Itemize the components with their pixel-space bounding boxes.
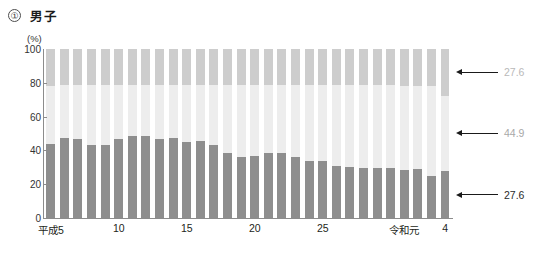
bar-segment-bottom (291, 157, 300, 218)
annotation-bottom: 27.6 (456, 189, 524, 201)
bar-column (262, 49, 276, 218)
bar-segment-middle (169, 85, 178, 137)
bar-segment-middle (60, 85, 69, 137)
bar-segment-middle (114, 85, 123, 138)
bar-segment-top (291, 49, 300, 85)
bar-segment-middle (386, 85, 395, 168)
y-axis-tick-label: 40 (30, 145, 41, 156)
bar-segment-bottom (427, 176, 436, 218)
y-axis-tick-label: 60 (30, 111, 41, 122)
bar-segment-top (264, 49, 273, 85)
bar-segment-bottom (46, 144, 55, 218)
bar-column (329, 49, 343, 218)
bar-segment-top (413, 49, 422, 86)
bar-segment-bottom (332, 166, 341, 218)
bar-segment-top (73, 49, 82, 85)
x-axis-tick-label: 20 (249, 222, 261, 234)
bar-segment-top (237, 49, 246, 85)
x-axis-tick-label: 25 (317, 222, 329, 234)
x-axis-tick-label: 令和元 (389, 222, 419, 237)
bar-segment-bottom (441, 171, 450, 218)
annotation-middle: 44.9 (456, 127, 524, 139)
bar-segment-middle (128, 85, 137, 136)
bar-segment-top (114, 49, 123, 85)
bar-segment-top (46, 49, 55, 86)
bar-segment-bottom (87, 145, 96, 219)
bar-segment-top (332, 49, 341, 85)
x-axis-line (43, 218, 453, 219)
bar-segment-top (277, 49, 286, 85)
bar-segment-top (141, 49, 150, 85)
bar-segment-bottom (345, 167, 354, 218)
bar-column (357, 49, 371, 218)
bar-column (411, 49, 425, 218)
bar-segment-middle (46, 86, 55, 144)
bar-segment-bottom (359, 168, 368, 218)
bar-segment-top (101, 49, 110, 85)
bar-segment-middle (87, 85, 96, 144)
bar-segment-middle (264, 85, 273, 153)
bar-segment-bottom (101, 145, 110, 218)
annotation-value: 27.6 (504, 189, 524, 201)
bar-segment-middle (291, 85, 300, 157)
x-axis-tick-label: 平成5 (38, 222, 64, 237)
bar-segment-middle (250, 85, 259, 156)
bar-column (126, 49, 140, 218)
bar-segment-top (182, 49, 191, 85)
y-axis-tick-mark (43, 117, 47, 118)
bar-column (370, 49, 384, 218)
y-axis-tick-mark (43, 150, 47, 151)
plot-area (44, 49, 452, 218)
bar-segment-middle (223, 85, 232, 153)
bar-column (384, 49, 398, 218)
bar-column (289, 49, 303, 218)
bar-segment-bottom (73, 139, 82, 218)
annotation-value: 44.9 (504, 127, 524, 139)
bar-segment-top (441, 49, 450, 96)
annotation-leader-line (462, 72, 498, 73)
bar-segment-top (223, 49, 232, 85)
bar-segment-top (359, 49, 368, 85)
annotation-leader-line (462, 133, 498, 134)
bar-series (44, 49, 452, 218)
bar-column (343, 49, 357, 218)
bar-column (58, 49, 72, 218)
bar-column (425, 49, 439, 218)
annotation-top: 27.6 (456, 66, 524, 78)
bar-column (194, 49, 208, 218)
bar-column (275, 49, 289, 218)
bar-segment-middle (400, 86, 409, 170)
bar-segment-bottom (373, 168, 382, 218)
y-axis-tick-label: 20 (30, 179, 41, 190)
bar-segment-bottom (277, 153, 286, 218)
bar-segment-middle (141, 85, 150, 136)
bar-segment-top (400, 49, 409, 86)
bar-segment-bottom (400, 170, 409, 218)
bar-segment-top (128, 49, 137, 85)
bar-segment-bottom (155, 139, 164, 218)
annotation-value: 27.6 (504, 66, 524, 78)
bar-segment-bottom (209, 145, 218, 218)
bar-segment-bottom (128, 136, 137, 218)
bar-segment-bottom (196, 141, 205, 218)
bar-segment-middle (441, 96, 450, 172)
bar-segment-top (427, 49, 436, 86)
bar-column (234, 49, 248, 218)
bar-column (153, 49, 167, 218)
bar-column (302, 49, 316, 218)
bar-segment-top (60, 49, 69, 85)
bar-segment-middle (73, 85, 82, 138)
x-axis-tick-label: 4 (442, 222, 448, 234)
bar-segment-bottom (250, 156, 259, 218)
y-axis-tick-mark (43, 184, 47, 185)
bar-segment-top (250, 49, 259, 85)
bar-column (248, 49, 262, 218)
bar-column (112, 49, 126, 218)
bar-segment-top (318, 49, 327, 85)
bar-segment-bottom (141, 136, 150, 218)
x-axis-labels: 平成510152025令和元4 (0, 222, 533, 244)
x-axis-tick-label: 10 (113, 222, 125, 234)
bar-segment-middle (237, 85, 246, 157)
bar-segment-top (305, 49, 314, 85)
bar-segment-middle (359, 85, 368, 168)
